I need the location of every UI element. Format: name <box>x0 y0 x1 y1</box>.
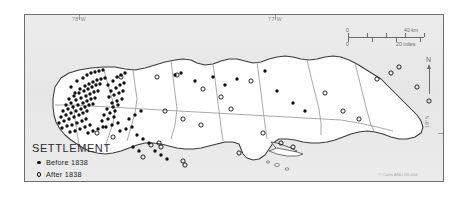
legend-label-after-1838: After 1838 <box>46 170 82 179</box>
graticule-tick-18n <box>438 133 443 134</box>
legend: SETTLEMENT Before 1838 After 1838 <box>32 142 136 179</box>
scale-tick-km-30 <box>405 33 406 37</box>
cay-2 <box>285 168 289 170</box>
map-page: 78°W 77°W 18°N 0 40 km 0 20 miles N SETT… <box>0 0 470 224</box>
scale-bar: 0 40 km 0 20 miles <box>346 24 438 54</box>
filled-dot-icon <box>32 161 46 164</box>
north-arrow-icon: N <box>424 56 438 96</box>
scale-tick-km-0 <box>348 33 349 37</box>
legend-label-before-1838: Before 1838 <box>46 158 88 167</box>
cay-1 <box>275 164 280 167</box>
cay-3 <box>266 161 269 163</box>
scale-tick-km-40 <box>424 33 425 37</box>
legend-item-after-1838: After 1838 <box>32 170 136 179</box>
scale-tick-mi-20 <box>420 38 421 42</box>
scale-label-mi-max: 20 miles <box>396 41 415 47</box>
legend-title: SETTLEMENT <box>32 142 136 154</box>
scale-label-km-zero: 0 <box>346 27 349 33</box>
open-circle-icon <box>32 172 46 176</box>
north-arrow-label: N <box>426 56 431 63</box>
scale-label-mi-zero: 0 <box>346 41 349 47</box>
legend-item-before-1838: Before 1838 <box>32 158 136 167</box>
scale-label-km-max: 40 km <box>404 27 418 33</box>
scale-tick-km-10 <box>367 33 368 37</box>
north-arrow-shaft <box>429 66 430 94</box>
latitude-label-18n: 18°N <box>424 115 430 128</box>
scale-tick-km-20 <box>386 33 387 37</box>
scale-bar-rule <box>348 37 424 38</box>
map-credit: © Carto ANU 08-004 <box>378 172 417 177</box>
longitude-label-78w: 78°W <box>72 16 86 22</box>
scale-tick-mi-5 <box>372 38 373 42</box>
longitude-label-77w: 77°W <box>268 16 282 22</box>
